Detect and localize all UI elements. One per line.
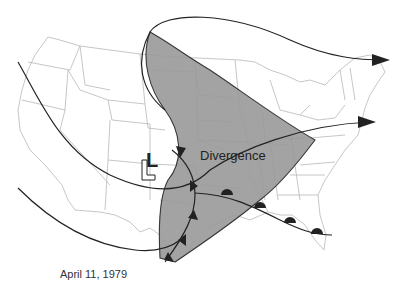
low-pressure-symbol: L: [146, 150, 158, 170]
divergence-label: Divergence: [200, 148, 266, 163]
weather-map: [0, 0, 404, 292]
divergence-region: [146, 32, 315, 262]
date-caption: April 11, 1979: [60, 268, 127, 280]
arrow-head-east: [358, 116, 376, 128]
flow-line-south: [18, 188, 180, 251]
